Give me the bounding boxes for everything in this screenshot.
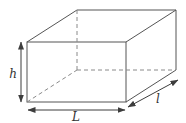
box-top-face xyxy=(27,10,176,42)
length-label: L xyxy=(71,110,80,123)
box-bottom-left-depth-hidden-edge xyxy=(27,70,77,102)
box-visible-edges xyxy=(27,10,176,102)
depth-dimension: l xyxy=(128,80,178,107)
cuboid-diagram: h L l xyxy=(0,0,186,123)
height-dimension: h xyxy=(9,42,21,102)
box-bottom-right-depth-edge xyxy=(126,70,176,102)
depth-dimension-arrow xyxy=(128,80,178,107)
depth-label: l xyxy=(156,92,160,106)
length-dimension: L xyxy=(28,110,125,123)
cuboid-diagram-svg: h L l xyxy=(0,0,186,123)
height-label: h xyxy=(9,67,17,81)
